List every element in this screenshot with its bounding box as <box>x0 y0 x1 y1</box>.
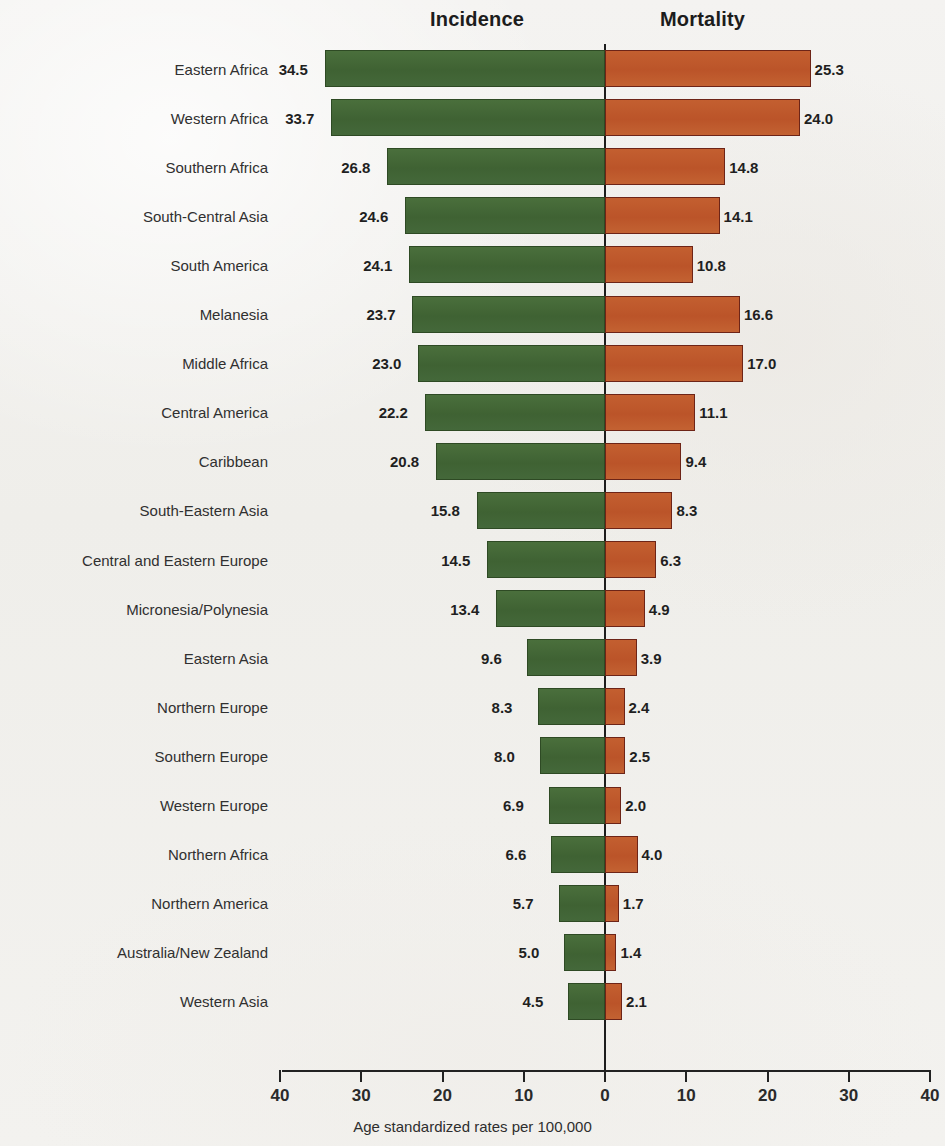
category-label: Southern Europe <box>155 747 268 764</box>
incidence-value-label: 23.0 <box>372 355 401 372</box>
chart-row: Western Africa33.724.0 <box>0 93 945 142</box>
incidence-value-label: 14.5 <box>441 551 470 568</box>
x-axis-tick-label: 10 <box>514 1086 533 1106</box>
incidence-bar <box>425 394 605 431</box>
chart-row: Southern Africa26.814.8 <box>0 142 945 191</box>
mortality-value-label: 2.4 <box>629 698 650 715</box>
mortality-value-label: 1.7 <box>623 895 644 912</box>
incidence-bar <box>325 50 605 87</box>
incidence-value-label: 20.8 <box>390 453 419 470</box>
category-label: South-Eastern Asia <box>140 502 268 519</box>
category-label: Australia/New Zealand <box>117 944 268 961</box>
mortality-value-label: 17.0 <box>747 355 776 372</box>
category-label: Eastern Asia <box>184 649 268 666</box>
x-axis-line <box>282 1070 930 1072</box>
incidence-bar <box>527 639 605 676</box>
mortality-bar <box>605 983 622 1020</box>
incidence-value-label: 15.8 <box>431 502 460 519</box>
mortality-value-label: 2.0 <box>625 797 646 814</box>
mortality-value-label: 24.0 <box>804 109 833 126</box>
mortality-bar <box>605 197 720 234</box>
mortality-value-label: 3.9 <box>641 649 662 666</box>
chart-row: Australia/New Zealand5.01.4 <box>0 928 945 977</box>
chart-row: South-Eastern Asia15.88.3 <box>0 486 945 535</box>
incidence-bar <box>568 983 605 1020</box>
incidence-bar <box>436 443 605 480</box>
mortality-bar <box>605 836 638 873</box>
mortality-value-label: 4.9 <box>649 600 670 617</box>
mortality-value-label: 1.4 <box>620 944 641 961</box>
incidence-bar <box>564 934 605 971</box>
chart-row: Eastern Africa34.525.3 <box>0 44 945 93</box>
incidence-value-label: 22.2 <box>379 404 408 421</box>
incidence-value-label: 5.7 <box>513 895 534 912</box>
chart-row: Northern Europe8.32.4 <box>0 682 945 731</box>
x-axis-tick <box>442 1070 444 1082</box>
incidence-bar <box>551 836 605 873</box>
chart-row: Southern Europe8.02.5 <box>0 731 945 780</box>
mortality-bar <box>605 492 672 529</box>
mortality-value-label: 8.3 <box>676 502 697 519</box>
mortality-value-label: 11.1 <box>699 404 727 421</box>
mortality-value-label: 6.3 <box>660 551 681 568</box>
incidence-value-label: 24.1 <box>363 256 392 273</box>
incidence-bar <box>409 246 605 283</box>
mortality-value-label: 2.5 <box>629 747 650 764</box>
x-axis-tick-label: 20 <box>433 1086 452 1106</box>
category-label: Southern Africa <box>165 158 268 175</box>
mortality-value-label: 14.1 <box>724 207 753 224</box>
incidence-value-label: 8.3 <box>492 698 513 715</box>
chart-row: Middle Africa23.017.0 <box>0 339 945 388</box>
chart-row: Northern America5.71.7 <box>0 879 945 928</box>
chart-row: Melanesia23.716.6 <box>0 290 945 339</box>
diverging-bar-chart: Incidence Mortality Eastern Africa34.525… <box>0 0 945 1146</box>
incidence-value-label: 9.6 <box>481 649 502 666</box>
x-axis-tick <box>848 1070 850 1082</box>
incidence-bar <box>477 492 605 529</box>
mortality-value-label: 14.8 <box>729 158 758 175</box>
incidence-bar <box>412 296 605 333</box>
incidence-value-label: 24.6 <box>359 207 388 224</box>
mortality-value-label: 9.4 <box>685 453 706 470</box>
x-axis-tick <box>360 1070 362 1082</box>
incidence-value-label: 4.5 <box>522 993 543 1010</box>
incidence-value-label: 8.0 <box>494 747 515 764</box>
mortality-bar <box>605 443 681 480</box>
category-label: Northern America <box>151 895 268 912</box>
mortality-value-label: 25.3 <box>815 60 844 77</box>
category-label: Eastern Africa <box>175 60 268 77</box>
incidence-value-label: 26.8 <box>341 158 370 175</box>
chart-row: Western Europe6.92.0 <box>0 781 945 830</box>
mortality-bar <box>605 787 621 824</box>
x-axis-tick <box>929 1070 931 1082</box>
mortality-bar <box>605 246 693 283</box>
x-axis-tick-label: 10 <box>677 1086 696 1106</box>
x-axis-tick-label: 40 <box>921 1086 940 1106</box>
mortality-bar <box>605 688 625 725</box>
incidence-value-label: 34.5 <box>279 60 308 77</box>
column-header-incidence: Incidence <box>430 8 524 31</box>
mortality-bar <box>605 148 725 185</box>
category-label: Western Africa <box>171 109 268 126</box>
chart-row: Eastern Asia9.63.9 <box>0 633 945 682</box>
x-axis-tick <box>767 1070 769 1082</box>
incidence-value-label: 5.0 <box>518 944 539 961</box>
mortality-bar <box>605 99 800 136</box>
mortality-bar <box>605 50 811 87</box>
chart-row: Western Asia4.52.1 <box>0 977 945 1026</box>
x-axis-tick-label: 20 <box>758 1086 777 1106</box>
x-axis-tick-label: 30 <box>839 1086 858 1106</box>
incidence-value-label: 23.7 <box>366 306 395 323</box>
incidence-bar <box>549 787 605 824</box>
mortality-bar <box>605 590 645 627</box>
mortality-bar <box>605 541 656 578</box>
mortality-bar <box>605 885 619 922</box>
incidence-bar <box>559 885 605 922</box>
incidence-bar <box>405 197 605 234</box>
chart-row: Northern Africa6.64.0 <box>0 830 945 879</box>
category-label: Northern Europe <box>157 698 268 715</box>
mortality-bar <box>605 737 625 774</box>
category-label: Melanesia <box>200 306 268 323</box>
category-label: Central America <box>161 404 268 421</box>
x-axis-tick <box>604 1070 606 1082</box>
